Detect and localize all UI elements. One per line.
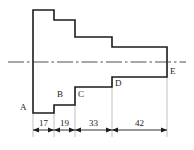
arrow-head-33-left (75, 127, 81, 132)
arrow-head-19-right (69, 127, 75, 132)
arrow-head-42-right (161, 127, 167, 132)
arrow-head-17-left (33, 127, 39, 132)
dimension-text-19: 19 (60, 119, 69, 128)
point-label-a: A (20, 103, 27, 112)
dimension-lines-group (33, 127, 167, 132)
dimension-text-17: 17 (39, 119, 48, 128)
dimension-text-42: 42 (135, 119, 144, 128)
shaft-profile-outline (33, 10, 167, 113)
point-label-b: B (57, 90, 63, 99)
point-label-e: E (170, 67, 176, 76)
arrow-head-33-right (106, 127, 112, 132)
shaft-technical-drawing: A B C D E 17 19 33 42 (0, 0, 194, 150)
arrow-head-17-right (48, 127, 54, 132)
arrow-head-19-left (54, 127, 60, 132)
arrow-head-42-left (112, 127, 118, 132)
point-label-c: C (78, 90, 84, 99)
point-label-d: D (115, 79, 122, 88)
dimension-text-33: 33 (89, 119, 98, 128)
